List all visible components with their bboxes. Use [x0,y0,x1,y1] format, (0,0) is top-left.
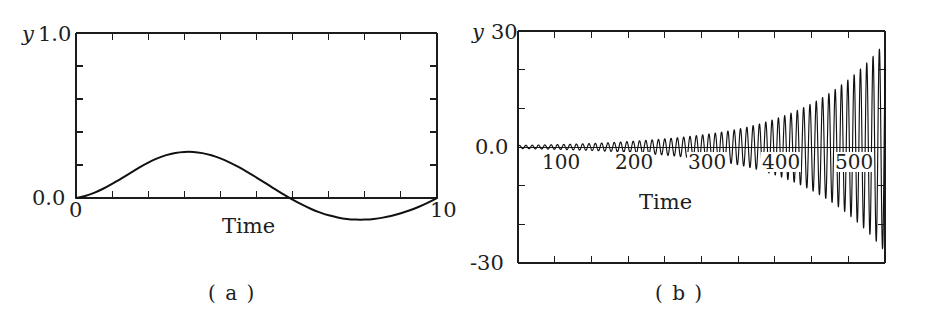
panel-a-y-bottom-label: 0.0 [32,188,65,209]
two-panel-figure: y 1.0 0.0 0 10 Time ( a ) [0,0,929,323]
panel-a-right-ticks [430,66,437,165]
panel-a-y-top-label: 1.0 [38,24,71,45]
panel-b-x-axis-title: Time [637,192,694,213]
panel-b-xtick-500: 500 [834,152,874,172]
panel-a-bottom-ticks [112,191,401,198]
panel-b-y-bottom-label: -30 [470,253,504,274]
panel-b: y 30 0.0 -30 100 200 300 400 500 Time ( … [465,0,929,323]
panel-a-x-axis-title: Time [222,216,275,237]
panel-a-plot [0,0,464,323]
panel-b-xtick-300: 300 [687,152,727,172]
panel-b-top-ticks [555,31,849,38]
panel-b-y-top-label: 30 [491,22,518,43]
panel-b-y-mid-label: 0.0 [475,137,508,158]
panel-a-x-left-label: 0 [69,200,82,221]
panel-b-bottom-ticks [555,256,849,263]
panel-b-xtick-200: 200 [614,152,654,172]
panel-b-data-curve [518,49,885,248]
panel-a: y 1.0 0.0 0 10 Time ( a ) [0,0,464,323]
panel-a-caption: ( a ) [208,283,256,303]
panel-b-xtick-400: 400 [761,152,801,172]
panel-a-data-curve [76,152,437,220]
panel-b-caption: ( b ) [655,283,704,303]
panel-a-x-right-label: 10 [430,200,457,221]
panel-a-left-ticks [76,66,83,165]
panel-a-top-ticks [112,33,401,40]
panel-b-y-axis-symbol: y [472,22,484,43]
panel-b-xtick-100: 100 [541,152,581,172]
panel-a-y-axis-symbol: y [22,24,34,45]
